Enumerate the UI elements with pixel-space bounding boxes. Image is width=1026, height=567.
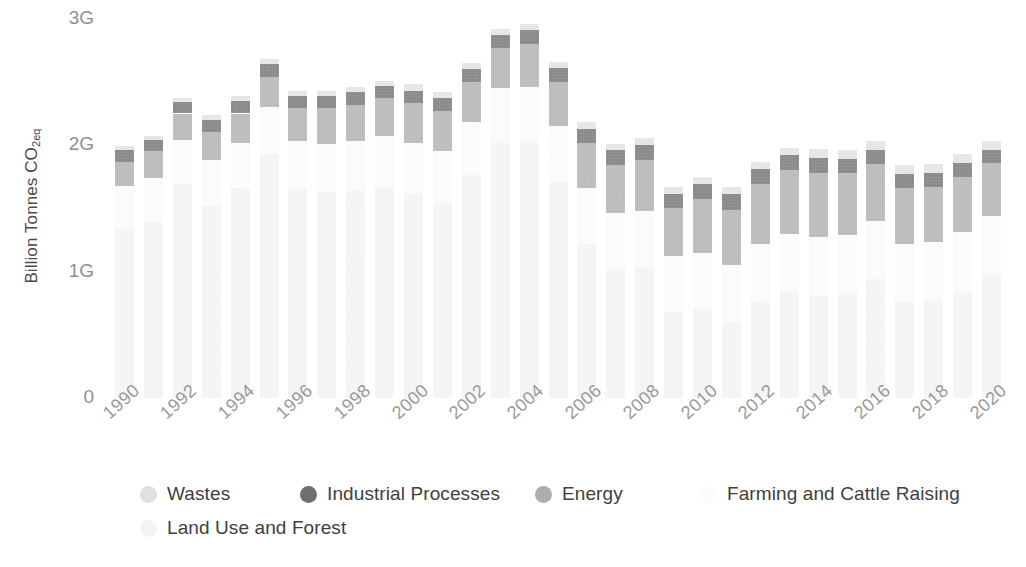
bar-column[interactable] bbox=[722, 187, 741, 398]
bar-segment bbox=[346, 191, 365, 398]
bar-segment bbox=[751, 244, 770, 301]
bar-segment bbox=[780, 155, 799, 170]
legend-item[interactable]: Wastes bbox=[140, 483, 230, 505]
bar-segment bbox=[144, 222, 163, 398]
bar-segment bbox=[809, 149, 828, 158]
bar-segment bbox=[317, 91, 336, 96]
bar-column[interactable] bbox=[780, 148, 799, 398]
bar-segment bbox=[924, 164, 943, 173]
bar-segment bbox=[144, 178, 163, 222]
bar-column[interactable] bbox=[664, 187, 683, 398]
bar-segment bbox=[231, 114, 250, 143]
plot-area bbox=[100, 6, 1016, 398]
bar-segment bbox=[520, 30, 539, 44]
bar-segment bbox=[924, 242, 943, 300]
bar-column[interactable] bbox=[693, 177, 712, 398]
bar-segment bbox=[549, 82, 568, 126]
bar-column[interactable] bbox=[433, 92, 452, 398]
bar-column[interactable] bbox=[577, 122, 596, 398]
bar-segment bbox=[520, 44, 539, 87]
bar-segment bbox=[982, 275, 1001, 398]
bar-segment bbox=[635, 267, 654, 399]
bar-segment bbox=[924, 173, 943, 187]
bar-column[interactable] bbox=[317, 91, 336, 398]
bar-column[interactable] bbox=[491, 29, 510, 398]
bar-segment bbox=[202, 160, 221, 206]
bar-segment bbox=[635, 138, 654, 146]
bar-segment bbox=[173, 98, 192, 102]
legend-label: Farming and Cattle Raising bbox=[727, 483, 960, 505]
bar-segment bbox=[606, 269, 625, 398]
bar-segment bbox=[982, 150, 1001, 163]
bar-segment bbox=[982, 216, 1001, 275]
bar-segment bbox=[635, 145, 654, 160]
bar-segment bbox=[953, 292, 972, 398]
bar-segment bbox=[982, 163, 1001, 216]
bar-segment bbox=[115, 146, 134, 150]
bar-segment bbox=[606, 144, 625, 150]
bar-column[interactable] bbox=[606, 144, 625, 398]
bar-segment bbox=[317, 108, 336, 143]
legend-swatch-circle-icon bbox=[300, 486, 317, 503]
bar-segment bbox=[375, 187, 394, 398]
legend-label: Wastes bbox=[167, 483, 230, 505]
bar-column[interactable] bbox=[462, 63, 481, 398]
bar-segment bbox=[520, 143, 539, 398]
bar-segment bbox=[202, 132, 221, 160]
bar-segment bbox=[866, 150, 885, 164]
bar-segment bbox=[838, 159, 857, 173]
bar-column[interactable] bbox=[809, 149, 828, 398]
legend-item[interactable]: Farming and Cattle Raising bbox=[700, 483, 960, 505]
bar-segment bbox=[866, 279, 885, 398]
legend-item[interactable]: Industrial Processes bbox=[300, 483, 500, 505]
bar-segment bbox=[375, 81, 394, 86]
bar-segment bbox=[202, 206, 221, 398]
bar-segment bbox=[433, 92, 452, 98]
bar-column[interactable] bbox=[895, 165, 914, 398]
bar-segment bbox=[953, 232, 972, 291]
legend-label: Industrial Processes bbox=[327, 483, 500, 505]
bar-column[interactable] bbox=[953, 154, 972, 398]
bar-segment bbox=[780, 291, 799, 398]
bar-segment bbox=[780, 148, 799, 156]
bar-column[interactable] bbox=[404, 84, 423, 398]
bar-segment bbox=[577, 188, 596, 244]
bar-column[interactable] bbox=[866, 141, 885, 398]
bar-segment bbox=[144, 140, 163, 151]
bar-column[interactable] bbox=[115, 146, 134, 398]
bar-column[interactable] bbox=[982, 141, 1001, 398]
bar-segment bbox=[375, 98, 394, 136]
bar-column[interactable] bbox=[231, 96, 250, 398]
bar-column[interactable] bbox=[260, 59, 279, 398]
bar-segment bbox=[491, 143, 510, 398]
bar-column[interactable] bbox=[144, 136, 163, 398]
legend-item[interactable]: Land Use and Forest bbox=[140, 517, 346, 539]
bar-column[interactable] bbox=[751, 162, 770, 398]
bar-column[interactable] bbox=[202, 115, 221, 398]
bar-segment bbox=[549, 62, 568, 68]
bar-column[interactable] bbox=[924, 164, 943, 398]
bar-column[interactable] bbox=[288, 91, 307, 398]
bar-segment bbox=[491, 88, 510, 142]
bar-segment bbox=[809, 158, 828, 173]
bar-segment bbox=[231, 143, 250, 189]
bar-segment bbox=[838, 235, 857, 293]
bar-segment bbox=[664, 194, 683, 208]
bar-column[interactable] bbox=[838, 150, 857, 398]
bar-segment bbox=[693, 253, 712, 310]
bar-column[interactable] bbox=[520, 24, 539, 398]
bar-column[interactable] bbox=[375, 81, 394, 398]
bar-segment bbox=[231, 96, 250, 101]
bar-segment bbox=[173, 114, 192, 141]
bar-column[interactable] bbox=[635, 138, 654, 398]
bar-segment bbox=[549, 126, 568, 182]
bar-column[interactable] bbox=[346, 87, 365, 398]
bar-segment bbox=[693, 177, 712, 185]
bar-segment bbox=[288, 189, 307, 398]
bar-segment bbox=[895, 174, 914, 188]
bar-segment bbox=[433, 151, 452, 203]
bar-column[interactable] bbox=[549, 62, 568, 398]
legend-item[interactable]: Energy bbox=[535, 483, 623, 505]
bar-column[interactable] bbox=[173, 98, 192, 398]
bar-segment bbox=[375, 86, 394, 99]
